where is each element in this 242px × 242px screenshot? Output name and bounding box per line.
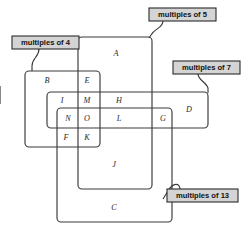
set-rect-multiples-of-7 [47,92,208,128]
region-label-k: K [83,133,90,142]
region-label-j: J [112,160,116,169]
callout-label-multiples-of-5: multiples of 5 [158,10,208,19]
callout-label-multiples-of-13: multiples of 13 [176,191,229,200]
region-label-g: G [160,114,166,123]
region-label-a: A [112,49,119,58]
callout-label-multiples-of-4: multiples of 4 [21,38,71,47]
region-label-m: M [83,96,92,105]
region-label-o: O [84,114,90,123]
region-label-h: H [115,96,123,105]
venn-diagram-canvas: A B E I M H D N O L G F K J C multiples … [0,0,242,242]
region-label-c: C [111,203,117,212]
callout-multiples-of-7[interactable]: multiples of 7 [173,61,240,74]
region-label-f: F [62,133,69,142]
region-label-i: I [60,96,65,105]
region-label-l: L [116,114,122,123]
leader-line-multiples-of-5 [149,21,163,38]
region-label-n: N [64,114,71,123]
callout-label-multiples-of-7: multiples of 7 [182,63,231,72]
callout-multiples-of-4[interactable]: multiples of 4 [12,36,79,49]
region-label-d: D [185,105,192,114]
callout-multiples-of-5[interactable]: multiples of 5 [149,8,216,21]
leader-line-multiples-of-7 [198,74,208,93]
region-label-e: E [83,76,89,85]
leader-line-multiples-of-4 [32,49,39,71]
region-label-b: B [44,76,49,85]
callout-multiples-of-13[interactable]: multiples of 13 [167,189,238,202]
venn-diagram-svg: A B E I M H D N O L G F K J C multiples … [0,0,242,242]
